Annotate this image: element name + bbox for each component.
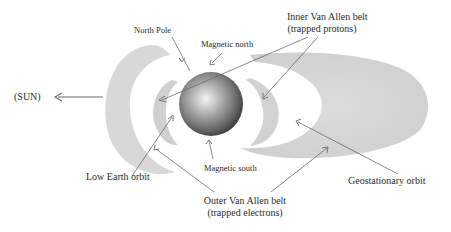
magnetic-south-label: Magnetic south (204, 163, 257, 173)
outer-belt-label-line1: Outer Van Allen belt (196, 195, 294, 207)
geostationary-orbit-label: Geostationary orbit (348, 175, 425, 187)
outer-belt-label: Outer Van Allen belt (trapped electrons) (196, 195, 294, 219)
inner-belt-label: Inner Van Allen belt (trapped protons) (287, 11, 357, 35)
magnetic-north-label: Magnetic north (201, 39, 253, 49)
sun-direction-arrow (55, 93, 103, 101)
inner-belt-label-line2: (trapped protons) (287, 23, 357, 35)
north-pole-leader (172, 37, 190, 71)
sun-label: (SUN) (14, 91, 41, 103)
inner-belt-label-line1: Inner Van Allen belt (287, 11, 357, 23)
van-allen-belts-diagram: (SUN) North Pole Magnetic north Inner Va… (0, 0, 451, 232)
inner-belt-left-crescent (153, 80, 178, 145)
earth-globe (179, 72, 243, 136)
north-pole-label: North Pole (134, 25, 171, 35)
outer-belt-label-line2: (trapped electrons) (196, 207, 294, 219)
magnetic-south-leader (206, 140, 213, 159)
magnetic-north-leader (210, 53, 222, 65)
low-earth-orbit-label: Low Earth orbit (86, 171, 150, 183)
inner-belt-right-crescent (246, 78, 279, 146)
